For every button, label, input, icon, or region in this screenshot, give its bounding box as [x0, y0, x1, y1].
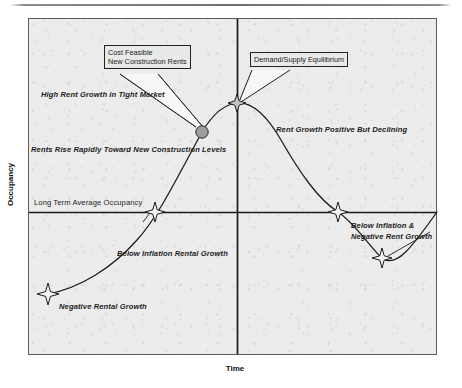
y-axis-title: Occupancy — [6, 154, 15, 216]
annotation-below-inflation-rental-growth: Below Inflation Rental Growth — [117, 249, 228, 258]
callout-demand-supply-line1: Demand/Supply Equilibrium — [254, 55, 344, 64]
callout-demand-supply[interactable]: Demand/Supply Equilibrium — [250, 52, 348, 67]
annotation-rent-growth-positive: Rent Growth Positive But Declining — [276, 125, 407, 134]
figure-container: Cost Feasible New Construction Rents Dem… — [0, 0, 462, 388]
x-axis-title: Time — [195, 364, 275, 373]
annotation-high-rent-growth: High Rent Growth in Tight Market — [41, 90, 165, 99]
annotation-below-inflation-line2: Negative Rent Growth — [351, 232, 432, 241]
marker-ltao-crossing-falling — [328, 202, 348, 222]
annotation-negative-rental-growth: Negative Rental Growth — [59, 302, 147, 311]
annotation-below-inflation-line1: Below Inflation & — [351, 221, 414, 230]
callout-cost-feasible-line1: Cost Feasible — [108, 48, 187, 57]
cost-feasible-leader-fill — [120, 74, 203, 127]
marker-cost-feasible-circle — [196, 126, 208, 138]
chart-vector-layer — [0, 0, 462, 388]
annotation-long-term-average-occupancy: Long Term Average Occupancy — [34, 198, 142, 207]
callout-cost-feasible-line2: New Construction Rents — [108, 57, 187, 66]
marker-negative-rental-growth — [37, 283, 59, 305]
annotation-rents-rise-rapidly: Rents Rise Rapidly Toward New Constructi… — [31, 145, 226, 154]
callout-cost-feasible[interactable]: Cost Feasible New Construction Rents — [104, 45, 191, 69]
